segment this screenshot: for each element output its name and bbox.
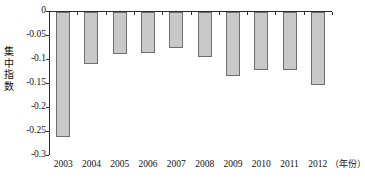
y-axis-tick-mark	[46, 59, 49, 60]
bar	[113, 12, 127, 54]
plot-area	[49, 11, 332, 155]
x-axis-tick-label: 2007	[162, 159, 190, 170]
x-axis-tick-mark	[247, 12, 248, 15]
x-axis-tick-mark	[275, 12, 276, 15]
y-axis-tick-mark	[46, 11, 49, 12]
x-axis-tick-label: 2010	[247, 159, 275, 170]
x-axis-tick-mark	[304, 12, 305, 15]
bar	[84, 12, 98, 64]
y-axis-tick-mark	[46, 155, 49, 156]
x-axis-tick-label: 2011	[276, 159, 304, 170]
y-axis-tick-mark	[46, 83, 49, 84]
bar	[56, 12, 70, 137]
y-axis-tick-label: -0.3	[16, 150, 46, 160]
x-axis-tick-mark	[106, 12, 107, 15]
x-axis-tick-mark	[162, 12, 163, 15]
x-axis-tick-label: 2009	[219, 159, 247, 170]
bar	[198, 12, 212, 57]
bar	[169, 12, 183, 48]
bar	[254, 12, 268, 70]
bar	[141, 12, 155, 53]
y-axis-tick-label: 0	[16, 6, 46, 16]
x-axis-tick-labels: （年份） 20032004200520062007200820092010201…	[49, 159, 351, 173]
x-axis-tick-mark	[134, 12, 135, 15]
bar	[226, 12, 240, 76]
x-axis-tick-label: 2006	[134, 159, 162, 170]
y-axis-tick-mark	[46, 131, 49, 132]
y-axis-tick-label: -0.25	[16, 126, 46, 136]
y-axis-tick-label: -0.1	[16, 54, 46, 64]
x-axis-tick-label: 2012	[304, 159, 332, 170]
x-axis-tick-mark	[77, 12, 78, 15]
bar	[283, 12, 297, 70]
y-axis-tick-mark	[46, 107, 49, 108]
y-axis-tick-label: -0.2	[16, 102, 46, 112]
x-axis-tick-mark	[219, 12, 220, 15]
x-axis-tick-mark	[191, 12, 192, 15]
x-axis-tick-mark	[332, 12, 333, 15]
x-axis-tick-label: 2003	[49, 159, 77, 170]
y-axis-tick-label: -0.15	[16, 78, 46, 88]
bar	[311, 12, 325, 85]
x-axis-tick-label: 2008	[191, 159, 219, 170]
x-axis-tick-label: 2004	[77, 159, 105, 170]
y-axis-tick-label: -0.05	[16, 30, 46, 40]
y-axis-tick-mark	[46, 35, 49, 36]
x-axis-unit-label: （年份）	[330, 159, 365, 170]
y-axis-line	[49, 11, 50, 155]
y-axis-tick-labels: 0-0.05-0.1-0.15-0.2-0.25-0.3	[14, 0, 46, 184]
x-axis-tick-label: 2005	[106, 159, 134, 170]
